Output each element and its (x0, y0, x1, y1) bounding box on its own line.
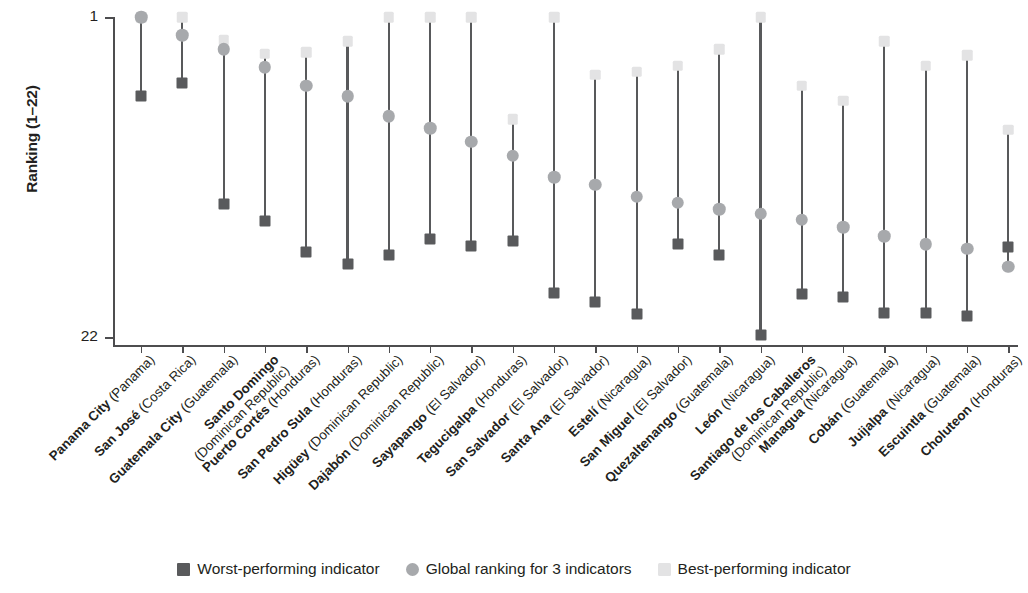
legend-item-global: Global ranking for 3 indicators (406, 560, 632, 578)
global-ranking-marker (796, 213, 809, 226)
x-tick-mark (471, 345, 472, 353)
best-indicator-marker (631, 67, 642, 78)
legend: Worst-performing indicator Global rankin… (0, 560, 1028, 578)
range-stem (966, 55, 968, 316)
global-ranking-marker (465, 136, 478, 149)
best-indicator-marker (177, 12, 188, 23)
global-ranking-marker (548, 171, 561, 184)
global-ranking-marker (672, 197, 685, 210)
range-stem (842, 101, 844, 298)
worst-indicator-marker (301, 246, 312, 257)
best-indicator-marker (838, 96, 849, 107)
x-tick-mark (513, 345, 514, 353)
range-stem (223, 40, 225, 205)
worst-indicator-marker (136, 91, 147, 102)
worst-indicator-marker (755, 330, 766, 341)
global-ranking-marker (837, 221, 850, 234)
x-tick-mark (554, 345, 555, 353)
worst-indicator-marker (796, 289, 807, 300)
worst-indicator-marker (507, 236, 518, 247)
x-tick-mark (637, 345, 638, 353)
y-tick-mark-22 (105, 337, 113, 339)
legend-label-worst: Worst-performing indicator (197, 560, 379, 578)
best-indicator-marker (920, 61, 931, 72)
x-tick-mark (761, 345, 762, 353)
best-indicator-marker (301, 47, 312, 58)
worst-indicator-marker (466, 240, 477, 251)
x-tick-mark (678, 345, 679, 353)
global-ranking-marker (1002, 261, 1015, 274)
global-ranking-marker (135, 11, 148, 24)
x-tick-mark (843, 345, 844, 353)
best-indicator-marker (797, 80, 808, 91)
global-ranking-marker (630, 191, 643, 204)
legend-label-global: Global ranking for 3 indicators (426, 560, 632, 578)
x-tick-mark (389, 345, 390, 353)
global-ranking-marker (217, 43, 230, 56)
range-stem (388, 17, 390, 255)
worst-indicator-marker (714, 249, 725, 260)
legend-item-worst: Worst-performing indicator (177, 560, 379, 578)
best-indicator-marker (673, 61, 684, 72)
best-marker-icon (658, 563, 671, 576)
range-stem (346, 41, 348, 263)
y-axis-line (113, 17, 115, 345)
range-stem (801, 86, 803, 295)
worst-marker-icon (177, 563, 190, 576)
global-ranking-marker (424, 122, 437, 135)
x-axis-line (113, 345, 1018, 347)
global-ranking-marker (919, 238, 932, 251)
range-stem (553, 17, 555, 293)
legend-item-best: Best-performing indicator (658, 560, 851, 578)
range-stem (677, 66, 679, 244)
range-stem (718, 49, 720, 255)
x-tick-mark (141, 345, 142, 353)
global-ranking-marker (961, 242, 974, 255)
x-tick-mark (306, 345, 307, 353)
worst-indicator-marker (631, 309, 642, 320)
range-stem (512, 119, 514, 241)
range-stem (925, 66, 927, 313)
worst-indicator-marker (672, 239, 683, 250)
worst-indicator-marker (342, 258, 353, 269)
range-stem (470, 17, 472, 246)
x-tick-mark (926, 345, 927, 353)
worst-indicator-marker (259, 216, 270, 227)
y-axis-label: Ranking (1–22) (23, 9, 41, 269)
x-tick-mark (595, 345, 596, 353)
x-tick-mark (430, 345, 431, 353)
x-tick-mark (348, 345, 349, 353)
global-ranking-marker (713, 203, 726, 216)
global-ranking-marker (259, 61, 272, 74)
x-tick-mark (967, 345, 968, 353)
global-ranking-marker (506, 149, 519, 162)
range-stem (181, 17, 183, 83)
range-stem (883, 41, 885, 312)
range-stem (264, 54, 266, 222)
worst-indicator-marker (838, 292, 849, 303)
worst-indicator-marker (879, 307, 890, 318)
best-indicator-marker (342, 36, 353, 47)
best-indicator-marker (962, 50, 973, 61)
x-tick-mark (182, 345, 183, 353)
best-indicator-marker (755, 12, 766, 23)
best-indicator-marker (507, 114, 518, 125)
global-ranking-marker (383, 110, 396, 123)
range-stem (140, 17, 142, 96)
worst-indicator-marker (962, 310, 973, 321)
global-ranking-marker (589, 178, 602, 191)
x-tick-mark (884, 345, 885, 353)
best-indicator-marker (425, 12, 436, 23)
best-indicator-marker (879, 36, 890, 47)
plot-area (113, 17, 1018, 345)
worst-indicator-marker (177, 77, 188, 88)
legend-label-best: Best-performing indicator (678, 560, 851, 578)
global-marker-icon (406, 563, 419, 576)
worst-indicator-marker (1003, 242, 1014, 253)
best-indicator-marker (714, 44, 725, 55)
worst-indicator-marker (383, 249, 394, 260)
best-indicator-marker (549, 12, 560, 23)
global-ranking-marker (341, 90, 354, 103)
best-indicator-marker (590, 70, 601, 81)
x-tick-mark (224, 345, 225, 353)
